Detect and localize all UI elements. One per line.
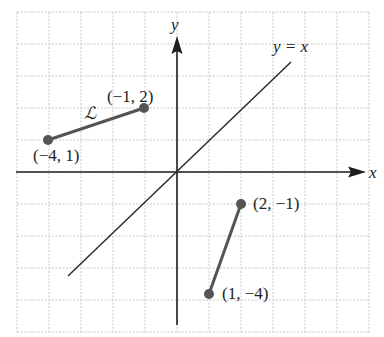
y-axis-label: y: [169, 15, 179, 34]
segment-L: [48, 108, 144, 140]
point-2-neg1: [236, 199, 246, 209]
y-equals-x-label: y = x: [271, 37, 309, 56]
point-neg4-1: [43, 135, 53, 145]
label-1-neg4: (1, −4): [222, 284, 268, 303]
segment-reflected: [209, 204, 241, 294]
coordinate-plane: x y y = x (−1, 2) (−4, 1) ℒ (2, −1) (1, …: [0, 0, 384, 337]
label-neg1-2: (−1, 2): [107, 87, 153, 106]
label-script-L: ℒ: [84, 104, 97, 123]
y-equals-x-line: [68, 62, 291, 276]
point-1-neg4: [204, 289, 214, 299]
x-axis-label: x: [368, 163, 377, 182]
label-2-neg1: (2, −1): [253, 194, 299, 213]
label-neg4-1: (−4, 1): [33, 146, 79, 165]
